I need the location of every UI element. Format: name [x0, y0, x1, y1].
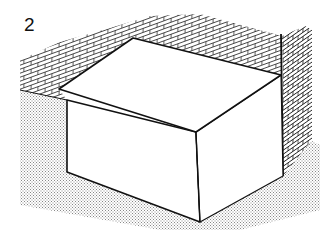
box-drawing	[0, 0, 326, 238]
illustration: 2	[0, 0, 326, 238]
figure-number: 2	[24, 15, 35, 34]
